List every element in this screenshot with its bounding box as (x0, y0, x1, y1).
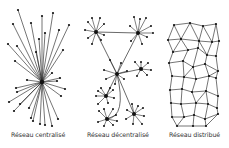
leaf-node (109, 87, 111, 89)
network-link (174, 23, 190, 25)
network-link (216, 41, 219, 56)
leaf-node (44, 124, 46, 126)
leaf-node (26, 79, 28, 81)
mesh-node (218, 40, 220, 42)
leaf-node (103, 23, 105, 25)
network-link (217, 96, 218, 108)
leaf-node (44, 32, 46, 34)
network-link (206, 114, 218, 126)
mesh-node (183, 76, 185, 78)
leaf-node (120, 62, 122, 64)
leaf-node (99, 17, 101, 19)
leaf-node (28, 107, 30, 109)
leaf-node (58, 29, 60, 31)
network-link (206, 91, 208, 104)
caption-distributed: Réseau distribué (169, 131, 220, 138)
network-link (199, 41, 212, 42)
network-link (173, 50, 188, 52)
leaf-node (142, 107, 144, 109)
network-link (216, 24, 219, 41)
leaf-node (141, 43, 143, 45)
leaf-node (112, 124, 114, 126)
hub-node (40, 80, 44, 84)
leaf-node (146, 74, 148, 76)
mesh-node (217, 95, 219, 97)
mesh-node (193, 114, 195, 116)
leaf-node (116, 120, 118, 122)
leaf-node (115, 114, 117, 116)
leaf-node (126, 109, 128, 111)
leaf-node (91, 43, 93, 45)
leaf-node (52, 12, 54, 14)
leaf-node (112, 108, 114, 110)
leaf-node (145, 17, 147, 19)
leaf-node (103, 69, 105, 71)
network-link (173, 39, 181, 52)
hub-node (94, 30, 98, 34)
leaf-node (103, 125, 105, 127)
hub-node (105, 117, 109, 121)
network-link (96, 32, 138, 33)
leaf-node (32, 120, 34, 122)
mesh-node (169, 89, 171, 91)
network-link (181, 39, 188, 50)
leaf-node (143, 115, 145, 117)
network-link (203, 24, 216, 26)
leaf-node (133, 16, 135, 18)
leaf-node (97, 90, 99, 92)
network-link (193, 115, 194, 126)
leaf-node (39, 123, 41, 125)
network-link (181, 89, 182, 104)
mesh-node (170, 102, 172, 104)
leaf-node (129, 25, 131, 27)
leaf-node (8, 101, 10, 103)
mesh-node (197, 47, 199, 49)
network-link (169, 63, 172, 76)
mesh-node (168, 62, 170, 64)
mesh-node (204, 63, 206, 65)
network-link (206, 91, 218, 96)
network-link (216, 78, 218, 96)
leaf-node (126, 70, 128, 72)
mesh-node (183, 116, 185, 118)
network-link (168, 40, 173, 52)
network-link (182, 77, 184, 89)
mesh-node (180, 38, 182, 40)
leaf-node (60, 95, 62, 97)
network-link (199, 26, 203, 41)
mesh-node (171, 116, 173, 118)
hub-node (136, 31, 140, 35)
mesh-node (189, 22, 191, 24)
network-link (117, 74, 134, 114)
mesh-node (205, 90, 207, 92)
mesh-node (192, 125, 194, 127)
leaf-node (51, 72, 53, 74)
mesh-node (215, 77, 217, 79)
leaf-node (152, 32, 154, 34)
network-link (184, 67, 193, 77)
network-link (193, 67, 196, 79)
network-link (208, 104, 217, 108)
network-link (181, 23, 190, 39)
leaf-node (56, 80, 58, 82)
network-link (172, 76, 184, 77)
network-link (199, 41, 207, 55)
leaf-node (123, 78, 125, 80)
leaf-node (134, 61, 136, 63)
network-link (216, 56, 218, 71)
network-link (205, 55, 207, 64)
leaf-node (109, 59, 111, 61)
network-link (192, 91, 206, 92)
leaf-node (113, 97, 115, 99)
leaf-node (131, 103, 133, 105)
mesh-node (172, 51, 174, 53)
network-link (196, 91, 206, 103)
caption-centralized: Réseau centralisé (11, 131, 65, 138)
network-link (198, 48, 207, 55)
mesh-node (205, 125, 207, 127)
leaf-node (112, 89, 114, 91)
leaf-node (97, 103, 99, 105)
network-link (171, 103, 181, 104)
mesh-node (217, 70, 219, 72)
network-link (206, 76, 209, 91)
